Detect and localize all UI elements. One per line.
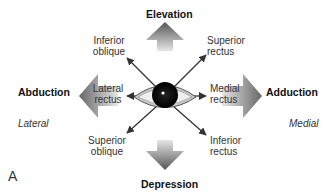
label-line: Superior [84,135,130,146]
elevation-arrow-icon [146,22,184,51]
elevation-label: Elevation [146,8,193,20]
depression-arrow-icon [146,140,184,170]
medial-rectus-label: Medial rectus [210,83,246,105]
label-line: Inferior [210,135,252,146]
inferior-rectus-arrow-icon [173,106,206,135]
label-line: rectus [210,94,246,105]
abduction-label: Abduction [18,86,70,98]
label-line: oblique [88,46,130,57]
superior-rectus-label: Superior rectus [207,35,249,57]
eye-icon [134,82,196,108]
lateral-side-label: Lateral [18,118,49,129]
lateral-rectus-label: Lateral rectus [90,83,126,105]
label-line: rectus [207,46,249,57]
label-line: Inferior [88,35,130,46]
label-line: Lateral [90,83,126,94]
label-line: oblique [84,146,130,157]
panel-label: A [8,168,17,184]
depression-label: Depression [141,178,198,190]
inferior-oblique-label: Inferior oblique [88,35,130,57]
inferior-oblique-arrow-icon [127,58,157,88]
label-line: rectus [90,94,126,105]
adduction-label: Adduction [266,86,318,98]
superior-oblique-label: Superior oblique [84,135,130,157]
superior-rectus-arrow-icon [173,55,206,88]
label-line: Superior [207,35,249,46]
medial-side-label: Medial [289,118,318,129]
superior-oblique-arrow-icon [127,106,157,133]
label-line: rectus [210,146,252,157]
inferior-rectus-label: Inferior rectus [210,135,252,157]
label-line: Medial [210,83,246,94]
